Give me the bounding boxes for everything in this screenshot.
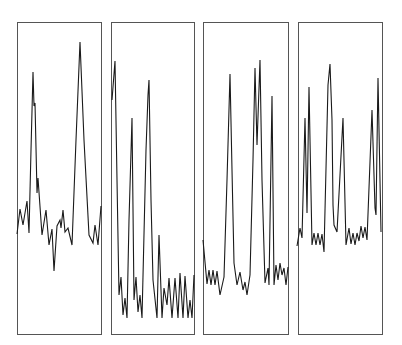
panel-2-trace xyxy=(112,61,194,318)
panel-4 xyxy=(297,23,383,335)
panel-1-trace xyxy=(17,42,101,271)
panel-1 xyxy=(17,23,102,335)
panel-2 xyxy=(112,23,195,335)
panel-3-trace xyxy=(203,60,288,295)
panel-4-trace xyxy=(297,64,381,252)
panel-2-frame xyxy=(112,23,195,335)
multi-panel-trace-chart xyxy=(0,0,402,345)
panel-3 xyxy=(203,23,289,335)
